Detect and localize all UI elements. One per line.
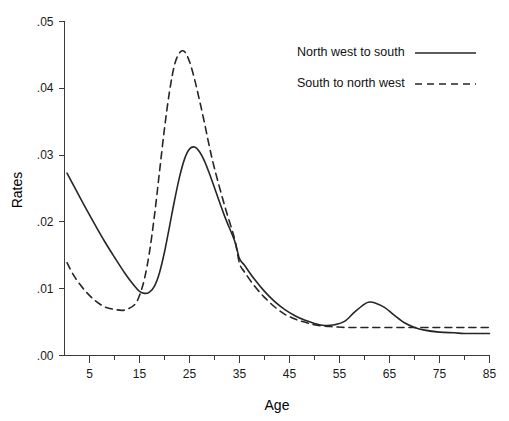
x-tick-label: 75: [433, 367, 447, 381]
x-axis-title: Age: [265, 397, 290, 413]
y-axis-title: Rates: [9, 172, 25, 209]
y-tick-label: .02: [37, 215, 54, 229]
x-tick-label: 85: [483, 367, 497, 381]
rates-by-age-line-chart: .00.01.02.03.04.05 51525354555657585 Nor…: [0, 0, 509, 421]
x-tick-label: 15: [133, 367, 147, 381]
chart-canvas: .00.01.02.03.04.05 51525354555657585 Nor…: [0, 0, 509, 421]
y-tick-label: .03: [37, 148, 54, 162]
x-tick-label: 25: [183, 367, 197, 381]
series-line-dashed: [67, 51, 490, 328]
y-tick-label: .05: [37, 15, 54, 29]
y-tick-label: .04: [37, 81, 54, 95]
x-tick-label: 45: [283, 367, 297, 381]
legend-label: North west to south: [297, 45, 405, 59]
legend-label: South to north west: [297, 76, 405, 90]
plot-axes: [65, 22, 490, 356]
x-axis-ticks: 51525354555657585: [86, 356, 496, 381]
series-line-solid: [67, 147, 490, 334]
x-tick-label: 5: [86, 367, 93, 381]
y-tick-label: .00: [37, 349, 54, 363]
data-series-group: [67, 51, 490, 334]
y-tick-label: .01: [37, 282, 54, 296]
x-tick-label: 65: [383, 367, 397, 381]
x-tick-label: 35: [233, 367, 247, 381]
chart-legend: North west to southSouth to north west: [297, 45, 476, 90]
y-axis-ticks: .00.01.02.03.04.05: [37, 15, 65, 363]
x-tick-label: 55: [333, 367, 347, 381]
